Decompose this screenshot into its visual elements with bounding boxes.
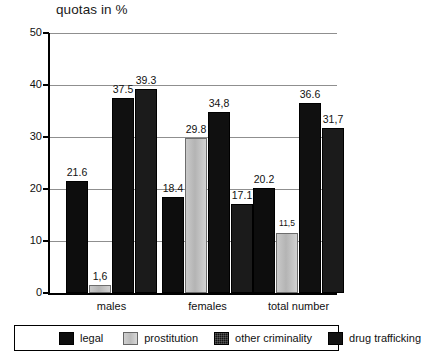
bar-prostitution-males	[89, 285, 111, 293]
legend-swatch-drug-trafficking-icon	[328, 332, 343, 345]
bar-value-label: 18.4	[153, 182, 193, 194]
y-tick-label: 30	[30, 130, 42, 142]
gridline	[50, 85, 337, 86]
bar-value-label: 17.1	[222, 189, 262, 201]
legend-item-prostitution: prostitution	[123, 332, 198, 345]
bar-value-label: 39.3	[126, 74, 166, 86]
legend-swatch-legal-icon	[59, 332, 74, 345]
legend-swatch-other-criminality-icon	[214, 332, 229, 345]
y-tick-mark	[43, 240, 49, 242]
bar-value-label: 36.6	[290, 88, 330, 100]
chart-title: quotas in %	[56, 2, 128, 17]
legend-item-drug-trafficking: drug trafficking	[328, 332, 421, 345]
bar-legal-females	[162, 197, 184, 293]
x-category-label-total-number: total number	[239, 300, 358, 312]
legend-item-other-criminality: other criminality	[214, 332, 312, 345]
legend-label-drug-trafficking: drug trafficking	[349, 332, 421, 344]
y-tick-label: 10	[30, 234, 42, 246]
bar-value-label: 29.8	[176, 123, 216, 135]
y-tick-mark	[43, 136, 49, 138]
legend-swatch-prostitution-icon	[123, 332, 138, 345]
legend-item-legal: legal	[59, 332, 103, 345]
bar-value-label: 20.2	[244, 173, 284, 185]
bar-other-criminality-total-number	[299, 103, 321, 293]
y-tick-label: 0	[36, 286, 42, 298]
bar-prostitution-females	[185, 138, 207, 293]
y-tick-mark	[43, 84, 49, 86]
legend-label-legal: legal	[80, 332, 103, 344]
bar-other-criminality-females	[208, 112, 230, 293]
bar-legal-total-number	[253, 188, 275, 293]
y-tick-label: 50	[30, 26, 42, 38]
y-tick-label: 20	[30, 182, 42, 194]
y-tick-mark	[43, 188, 49, 190]
y-axis-line	[48, 33, 50, 295]
y-tick-mark	[43, 292, 49, 294]
bar-value-label: 34,8	[199, 97, 239, 109]
y-tick-label: 40	[30, 78, 42, 90]
bar-value-label: 11,5	[267, 218, 307, 228]
bar-prostitution-total-number	[276, 233, 298, 293]
bar-value-label: 1,6	[80, 270, 120, 282]
bar-drug-trafficking-females	[231, 204, 253, 293]
y-tick-mark	[43, 32, 49, 34]
x-axis-line	[48, 293, 337, 295]
legend-label-prostitution: prostitution	[144, 332, 198, 344]
chart-legend: legal prostitution other criminality dru…	[14, 325, 339, 351]
bar-other-criminality-males	[112, 98, 134, 293]
legend-label-other-criminality: other criminality	[235, 332, 312, 344]
plot-area: 01020304050 21.61,637.539.318.429.834,81…	[48, 33, 337, 295]
bar-value-label: 21.6	[57, 166, 97, 178]
gridline	[50, 33, 337, 34]
bar-value-label: 31,7	[313, 113, 353, 125]
bar-drug-trafficking-total-number	[322, 128, 344, 293]
